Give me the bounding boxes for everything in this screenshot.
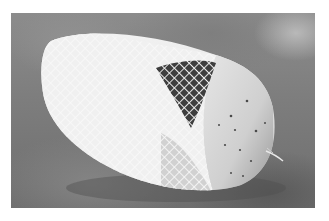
photo	[11, 13, 315, 208]
roll-end-uncovered	[204, 53, 273, 191]
netted-roll-illustration	[11, 13, 315, 208]
